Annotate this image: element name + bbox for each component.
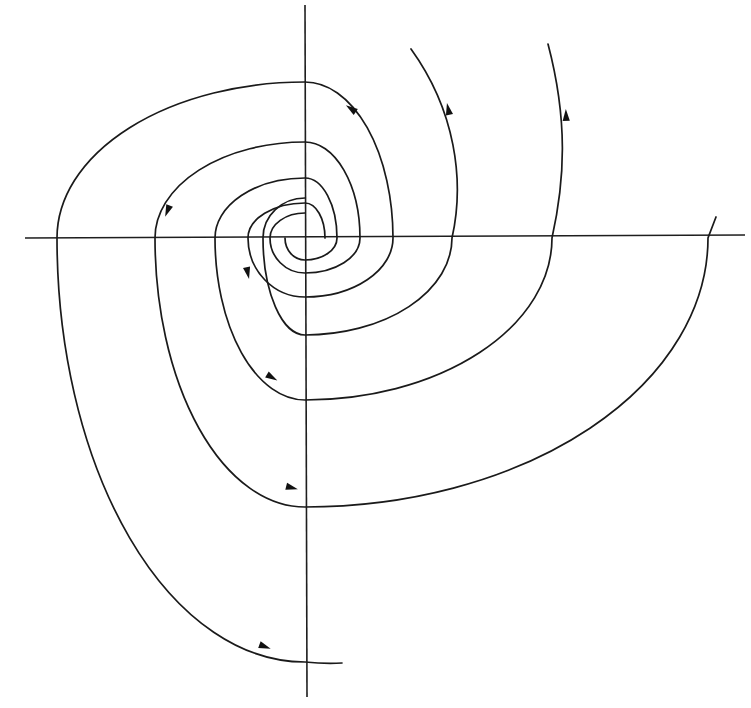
background bbox=[0, 0, 751, 708]
phase-portrait-figure bbox=[0, 0, 751, 708]
phase-portrait-svg bbox=[0, 0, 751, 708]
